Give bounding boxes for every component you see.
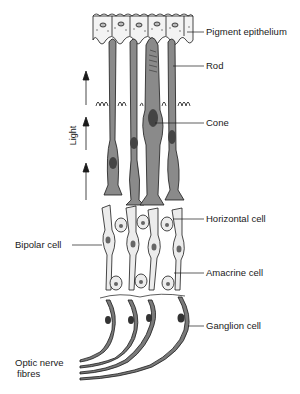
label-pigment-epithelium: Pigment epithelium	[206, 27, 287, 37]
label-horizontal-cell: Horizontal cell	[206, 214, 266, 224]
bipolar-layer	[102, 205, 184, 290]
label-amacrine-cell: Amacrine cell	[206, 268, 263, 278]
label-optic-nerve: Optic nerve	[15, 358, 64, 368]
label-rod: Rod	[206, 61, 223, 71]
ganglion-layer	[80, 297, 189, 380]
pigment-epithelium-layer	[93, 14, 193, 45]
label-ganglion-cell: Ganglion cell	[206, 321, 261, 331]
photoreceptor-layer	[104, 38, 184, 206]
label-bipolar-cell: Bipolar cell	[15, 240, 61, 250]
label-light: Light	[69, 126, 78, 146]
label-optic-nerve-fibres: fibres	[17, 369, 40, 379]
retina-diagram	[0, 0, 300, 394]
label-cone: Cone	[206, 118, 229, 128]
light-arrows	[83, 71, 89, 200]
